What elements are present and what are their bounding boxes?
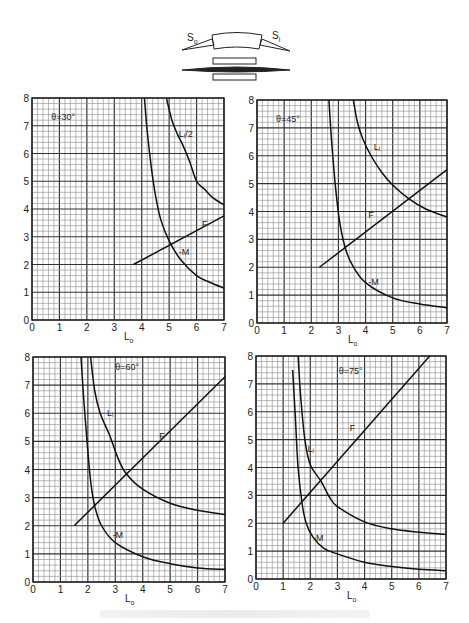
svg-text:8: 8 (247, 351, 253, 362)
svg-text:3: 3 (247, 490, 253, 501)
chart-theta-75: 01234567012345678Loθ=75°LᵢF-M (0, 0, 469, 623)
x-axis-label: Lo (347, 590, 357, 603)
svg-text:5: 5 (389, 581, 395, 592)
svg-text:1: 1 (247, 546, 253, 557)
svg-text:2: 2 (247, 518, 253, 529)
chart-grid (256, 356, 446, 579)
series-label: -M (313, 533, 324, 543)
svg-text:7: 7 (443, 581, 449, 592)
svg-text:6: 6 (247, 407, 253, 418)
svg-text:4: 4 (362, 581, 368, 592)
svg-text:5: 5 (247, 435, 253, 446)
series-label: F (350, 423, 356, 433)
svg-text:6: 6 (416, 581, 422, 592)
svg-text:1: 1 (280, 581, 286, 592)
svg-text:4: 4 (247, 463, 253, 474)
series-label: Lᵢ (308, 444, 314, 454)
chart-title: θ=75° (339, 366, 363, 376)
svg-text:0: 0 (253, 581, 259, 592)
svg-text:3: 3 (335, 581, 341, 592)
svg-text:7: 7 (247, 379, 253, 390)
svg-text:2: 2 (308, 581, 314, 592)
svg-text:0: 0 (247, 574, 253, 585)
figure-caption-illegible (100, 610, 370, 618)
